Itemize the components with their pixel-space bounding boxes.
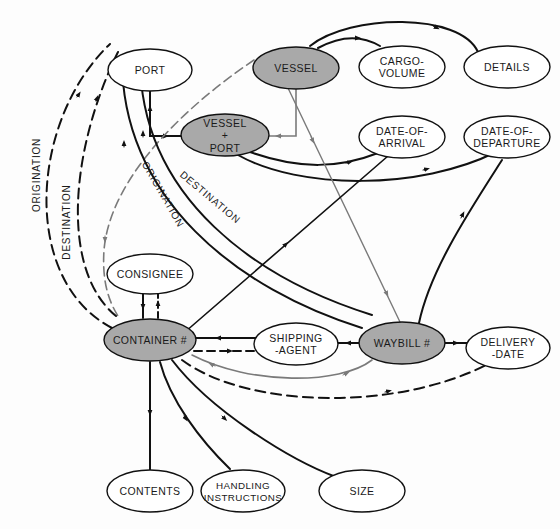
node-container: CONTAINER # xyxy=(104,319,196,361)
node-label: VOLUME xyxy=(379,67,426,79)
node-consignee: CONSIGNEE xyxy=(107,254,193,294)
edge-label-origination-inner: ORIGINATION xyxy=(140,159,187,229)
node-label: + xyxy=(222,129,229,141)
node-label: HANDLING xyxy=(216,480,270,491)
edge-label-destination-outer: DESTINATION xyxy=(61,184,72,259)
node-label: ARRIVAL xyxy=(379,137,426,149)
node-label: VESSEL xyxy=(274,62,317,74)
edge-arrow xyxy=(77,94,79,97)
node-delivery-date: DELIVERY-DATE xyxy=(466,327,550,369)
edge-port-vessel-port xyxy=(150,88,182,136)
node-label: PORT xyxy=(135,64,166,76)
node-label: INSTRUCTIONS xyxy=(204,492,282,503)
node-vessel-port: VESSEL+PORT xyxy=(181,114,269,156)
node-label: CONSIGNEE xyxy=(117,268,184,280)
node-shape xyxy=(201,470,285,512)
node-port: PORT xyxy=(108,49,192,91)
node-handling-instructions: HANDLINGINSTRUCTIONS xyxy=(201,470,285,512)
node-contents: CONTENTS xyxy=(107,470,193,512)
node-label: CONTAINER # xyxy=(113,334,187,346)
edge-arrow xyxy=(423,169,427,170)
node-date-of-arrival: DATE-OF-ARRIVAL xyxy=(359,116,445,158)
edge-arrow xyxy=(461,214,463,218)
node-vessel: VESSEL xyxy=(253,47,339,89)
edge-arrow xyxy=(385,391,389,392)
node-label: WAYBILL # xyxy=(374,337,430,349)
node-size: SIZE xyxy=(319,470,405,512)
edge-arrow xyxy=(96,98,97,101)
node-label: SHIPPING xyxy=(269,332,322,344)
node-label: PORT xyxy=(210,142,241,154)
node-waybill: WAYBILL # xyxy=(359,322,445,364)
edge-vessel-port-date-of-arrival xyxy=(250,152,378,165)
edge-container-handling-instructions xyxy=(160,362,230,469)
node-shipping-agent: SHIPPING-AGENT xyxy=(254,323,338,365)
edge-vessel-cargo-volume xyxy=(318,38,380,48)
diagram-canvas: ORIGINATION DESTINATION ORIGINATION DEST… xyxy=(0,0,560,529)
node-label: DATE-OF- xyxy=(481,125,533,137)
node-label: CONTENTS xyxy=(120,485,181,497)
node-date-of-departure: DATE-OF-DEPARTURE xyxy=(464,116,550,158)
node-details: DETAILS xyxy=(464,46,550,88)
node-label: DEPARTURE xyxy=(473,137,540,149)
node-label: -AGENT xyxy=(275,344,317,356)
node-label: DELIVERY xyxy=(481,336,536,348)
entity-relationship-diagram: ORIGINATION DESTINATION ORIGINATION DEST… xyxy=(0,0,560,529)
node-label: DETAILS xyxy=(484,61,530,73)
edge-arrow xyxy=(222,416,225,419)
node-label: -DATE xyxy=(492,348,525,360)
node-label: DATE-OF- xyxy=(376,125,428,137)
edge-container-delivery-date xyxy=(182,360,488,398)
edge-label-origination-outer: ORIGINATION xyxy=(31,138,42,212)
node-label: VESSEL xyxy=(203,117,246,129)
node-label: SIZE xyxy=(350,485,375,497)
node-cargo-volume: CARGO-VOLUME xyxy=(359,46,445,88)
edge-waybill-date-of-departure xyxy=(419,160,502,323)
node-label: CARGO- xyxy=(380,55,425,67)
